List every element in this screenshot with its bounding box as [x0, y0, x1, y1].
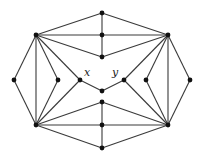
edge-x-center — [80, 80, 102, 91]
edge-ur-far-right — [168, 35, 190, 80]
edge-ll-bottom — [36, 125, 102, 148]
edge-ll-x — [36, 80, 80, 125]
vertex-ul — [34, 33, 39, 38]
vertex-label-x: x — [84, 66, 91, 79]
vertex-y — [122, 78, 127, 83]
edge-lr-y — [124, 80, 168, 125]
edge-center-y — [102, 80, 124, 91]
edge-ul-far-left — [14, 35, 36, 80]
vertex-ll — [34, 123, 39, 128]
edge-lr-bottom — [102, 125, 168, 148]
vertex-center — [100, 89, 105, 94]
vertex-label-y: y — [111, 66, 119, 79]
graph-diagram: x y — [0, 0, 205, 156]
vertex-bottom-mid — [100, 123, 105, 128]
edge-ur-y — [124, 35, 168, 80]
edge-ur-top — [102, 13, 168, 35]
vertex-right-inner — [144, 78, 149, 83]
vertex-x — [78, 78, 83, 83]
vertex-far-left — [12, 78, 17, 83]
edge-lr-far-right — [168, 80, 190, 125]
vertex-lr — [166, 123, 171, 128]
edge-ur-top-inner — [102, 35, 168, 57]
vertex-top — [100, 11, 105, 16]
vertex-bottom-inner — [100, 100, 105, 105]
edge-ul-top — [36, 13, 102, 35]
vertex-far-right — [188, 78, 193, 83]
vertex-top-mid — [100, 33, 105, 38]
vertex-left-inner — [56, 78, 61, 83]
edge-ul-top-inner — [36, 35, 102, 57]
vertex-bottom — [100, 146, 105, 151]
vertex-top-inner — [100, 55, 105, 60]
edge-ll-far-left — [14, 80, 36, 125]
vertex-ur — [166, 33, 171, 38]
edge-ul-x — [36, 35, 80, 80]
